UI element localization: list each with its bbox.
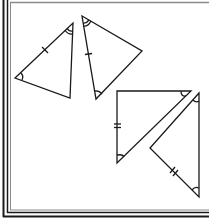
triangle-3 bbox=[114, 91, 191, 163]
triangle-2 bbox=[82, 16, 142, 99]
frame bbox=[3, 0, 209, 217]
triangle-4-outline bbox=[150, 93, 199, 197]
triangle-4 bbox=[150, 93, 199, 197]
angle-arc-double-outer bbox=[83, 20, 89, 23]
diagram-svg bbox=[0, 0, 209, 220]
triangle-2-outline bbox=[82, 16, 142, 99]
angle-arc bbox=[181, 91, 186, 96]
angle-arc bbox=[192, 187, 199, 190]
angle-arc bbox=[193, 100, 199, 102]
tick-mark-single bbox=[85, 54, 92, 55]
angle-arc-single bbox=[21, 73, 23, 80]
triangle-1 bbox=[15, 23, 73, 98]
triangle-1-outline bbox=[15, 23, 73, 98]
diagram-canvas bbox=[0, 0, 209, 220]
